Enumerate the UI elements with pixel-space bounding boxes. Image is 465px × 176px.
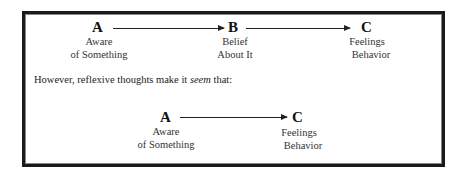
arrow-a-to-b — [113, 28, 224, 29]
bottom-node-c-label-2: Behavior — [278, 139, 328, 152]
node-a-label-2: of Something — [59, 48, 139, 61]
bottom-node-c-label-1: Feelings — [274, 126, 324, 139]
node-a-letter: A — [92, 20, 103, 35]
note-after: that: — [211, 74, 232, 85]
bottom-node-a-letter: A — [160, 110, 171, 125]
note-emphasis: seem — [190, 74, 211, 85]
node-b-letter: B — [228, 20, 238, 35]
node-b-label-1: Belief — [210, 35, 260, 48]
node-a-label-1: Aware — [64, 35, 134, 48]
node-c-label-1: Feelings — [342, 35, 392, 48]
node-c-letter: C — [361, 20, 372, 35]
node-c-label-2: Behavior — [346, 48, 396, 61]
bottom-node-a-label-1: Aware — [131, 125, 201, 138]
bottom-node-a-label-2: of Something — [126, 138, 206, 151]
note-text: However, reflexive thoughts make it seem… — [34, 74, 232, 85]
note-before: However, reflexive thoughts make it — [34, 74, 190, 85]
node-b-label-2: About It — [205, 48, 265, 61]
arrow-a-to-c — [180, 117, 287, 118]
arrow-b-to-c — [246, 28, 350, 29]
bottom-node-c-letter: C — [292, 110, 303, 125]
